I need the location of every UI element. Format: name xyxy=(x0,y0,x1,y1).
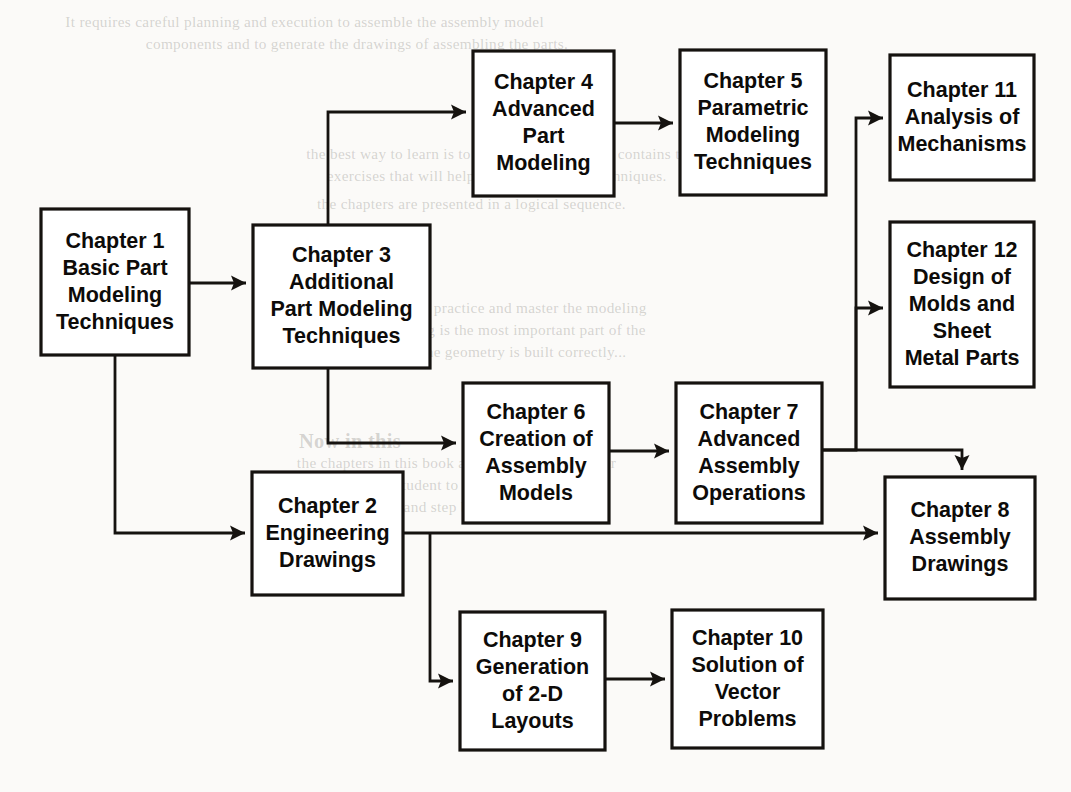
node-label-line: Advanced xyxy=(698,426,801,450)
node-label-line: Metal Parts xyxy=(905,345,1020,369)
node-label-line: Part Modeling xyxy=(270,297,412,321)
connector-ch3-ch4 xyxy=(328,105,466,226)
node-ch6[interactable]: Chapter 6Creation ofAssemblyModels xyxy=(463,383,609,523)
connector-line xyxy=(328,368,456,443)
connector-ch6-ch7 xyxy=(609,444,669,459)
node-label-line: Assembly xyxy=(909,525,1011,549)
connector-line xyxy=(822,450,962,470)
node-label-line: Chapter 10 xyxy=(692,625,803,649)
node-label-line: Chapter 1 xyxy=(65,228,164,252)
node-ch11[interactable]: Chapter 11Analysis ofMechanisms xyxy=(890,55,1034,180)
node-label-line: Advanced xyxy=(492,97,595,121)
node-label-line: Chapter 8 xyxy=(910,498,1009,522)
node-label: Chapter 2EngineeringDrawings xyxy=(265,493,389,571)
node-label-line: Chapter 12 xyxy=(906,237,1017,261)
node-label: Chapter 8AssemblyDrawings xyxy=(909,498,1011,576)
node-label-line: Chapter 4 xyxy=(494,70,593,94)
connector-line xyxy=(822,118,883,450)
node-label: Chapter 12Design ofMolds andSheetMetal P… xyxy=(905,237,1020,369)
node-ch7[interactable]: Chapter 7AdvancedAssemblyOperations xyxy=(676,383,822,523)
node-ch10[interactable]: Chapter 10Solution ofVectorProblems xyxy=(672,610,823,748)
node-ch2[interactable]: Chapter 2EngineeringDrawings xyxy=(252,472,403,595)
node-label-line: Chapter 11 xyxy=(907,77,1017,101)
node-label-line: Design of xyxy=(913,264,1012,288)
node-label-line: Chapter 5 xyxy=(703,69,802,93)
connector-ch9-ch10 xyxy=(605,672,665,687)
connector-ch1-ch3 xyxy=(189,276,246,291)
node-ch1[interactable]: Chapter 1Basic PartModelingTechniques xyxy=(41,209,189,355)
node-label-line: Models xyxy=(499,480,573,504)
node-label-line: Solution of xyxy=(691,652,804,676)
connector-ch7-ch8 xyxy=(822,450,970,470)
node-label-line: Analysis of xyxy=(905,104,1021,128)
node-label-line: Additional xyxy=(289,270,394,294)
node-label: Chapter 11Analysis ofMechanisms xyxy=(897,77,1026,155)
node-label-line: Vector xyxy=(715,679,781,703)
node-ch5[interactable]: Chapter 5ParametricModelingTechniques xyxy=(680,50,826,195)
node-label-line: Creation of xyxy=(479,426,593,450)
node-label-line: Chapter 2 xyxy=(278,493,377,517)
flowchart-svg: Chapter 1Basic PartModelingTechniquesCha… xyxy=(0,0,1071,792)
node-label-line: Sheet xyxy=(933,318,992,342)
connector-line xyxy=(328,112,466,225)
node-label-line: Layouts xyxy=(491,708,573,732)
node-label-line: Chapter 9 xyxy=(483,627,582,651)
node-label-line: Problems xyxy=(699,706,797,730)
node-label-line: Parametric xyxy=(697,96,808,120)
node-label-line: Engineering xyxy=(265,520,389,544)
node-ch9[interactable]: Chapter 9Generationof 2-DLayouts xyxy=(460,612,605,750)
node-label-line: Techniques xyxy=(694,150,812,174)
node-label-line: Molds and xyxy=(909,291,1015,315)
connector-line xyxy=(856,308,883,450)
node-label-line: Drawings xyxy=(279,547,376,571)
node-ch3[interactable]: Chapter 3AdditionalPart ModelingTechniqu… xyxy=(253,225,430,368)
node-label-line: Mechanisms xyxy=(897,131,1026,155)
connector-line xyxy=(430,533,453,681)
node-label-line: of 2-D xyxy=(502,681,563,705)
connector-ch1-ch2 xyxy=(115,355,245,541)
connector-ch4-ch5 xyxy=(614,116,673,131)
node-label-line: Chapter 3 xyxy=(292,243,391,267)
node-ch12[interactable]: Chapter 12Design ofMolds andSheetMetal P… xyxy=(890,222,1034,387)
node-label-line: Drawings xyxy=(912,552,1009,576)
node-label-line: Assembly xyxy=(698,453,800,477)
node-label-line: Modeling xyxy=(496,151,590,175)
node-label-line: Techniques xyxy=(283,324,401,348)
connector-ch2-ch8 xyxy=(403,526,878,541)
connector-ch3-ch6 xyxy=(328,368,456,451)
connector-ch7-ch12 xyxy=(856,301,883,451)
node-label-line: Modeling xyxy=(706,123,800,147)
node-label-line: Modeling xyxy=(68,282,162,306)
node-ch4[interactable]: Chapter 4AdvancedPartModeling xyxy=(473,51,614,196)
node-label-line: Chapter 7 xyxy=(699,399,798,423)
node-label-line: Techniques xyxy=(56,309,174,333)
node-label-line: Generation xyxy=(476,654,590,678)
connector-ch2-ch9 xyxy=(430,533,453,689)
node-ch8[interactable]: Chapter 8AssemblyDrawings xyxy=(885,477,1035,599)
node-label-line: Assembly xyxy=(485,453,587,477)
node-label-line: Basic Part xyxy=(62,255,167,279)
flowchart-canvas: It requires careful planning and executi… xyxy=(0,0,1071,792)
node-label-line: Chapter 6 xyxy=(486,399,585,423)
node-label-line: Operations xyxy=(692,480,806,504)
node-layer: Chapter 1Basic PartModelingTechniquesCha… xyxy=(41,50,1035,750)
connector-ch7-ch11 xyxy=(822,111,883,451)
node-label-line: Part xyxy=(523,124,565,148)
connector-line xyxy=(115,355,245,533)
